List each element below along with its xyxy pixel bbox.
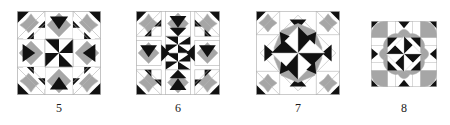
quilt-block-8-cell: 8 <box>358 0 450 125</box>
quilt-block-8-caption: 8 <box>358 102 450 114</box>
quilt-block-7-caption: 7 <box>238 102 358 114</box>
quilt-block-6-caption: 6 <box>118 102 238 114</box>
quilt-block-7-cell: 7 <box>238 0 358 125</box>
quilt-block-6-art <box>136 11 220 95</box>
quilt-block-5-cell: 5 <box>0 0 118 125</box>
quilt-block-figure: 5 <box>0 0 450 125</box>
quilt-block-7-art <box>256 11 340 95</box>
quilt-block-5-caption: 5 <box>0 102 118 114</box>
quilt-block-6-cell: 6 <box>118 0 238 125</box>
quilt-block-5-art <box>17 11 101 95</box>
quilt-block-8-art <box>371 21 437 87</box>
